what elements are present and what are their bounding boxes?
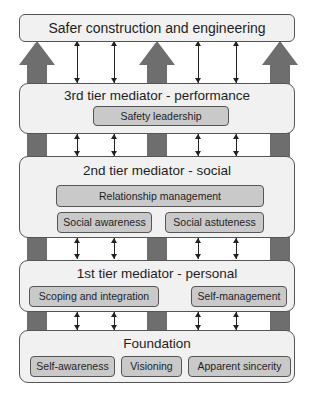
gap-band [167, 237, 270, 260]
tier1-box: 1st tier mediator - personal Scoping and… [19, 260, 295, 312]
chip-visioning: Visioning [121, 356, 182, 377]
double-arrow-icon [77, 134, 78, 156]
gap-band [167, 311, 270, 331]
double-arrow-icon [77, 238, 78, 259]
tier1-title: 1st tier mediator - personal [20, 266, 294, 281]
double-arrow-icon [198, 238, 199, 259]
double-arrow-icon [236, 134, 237, 156]
tier2-title: 2nd tier mediator - social [20, 163, 294, 178]
pillar-center-arrowhead-icon [139, 41, 175, 65]
chip-self-awareness: Self-awareness [30, 356, 115, 377]
chip-relationship-management: Relationship management [56, 185, 264, 207]
chip-scoping-integration: Scoping and integration [29, 286, 159, 307]
double-arrow-icon [77, 41, 78, 83]
foundation-box: Foundation Self-awareness Visioning Appa… [19, 330, 295, 383]
pillar-left-arrowhead-icon [19, 41, 55, 65]
tier2-box: 2nd tier mediator - social Relationship … [19, 156, 295, 238]
double-arrow-icon [114, 238, 115, 259]
chip-social-astuteness: Social astuteness [165, 212, 264, 233]
gap-band [47, 237, 147, 260]
outcome-label: Safer construction and engineering [20, 20, 294, 36]
double-arrow-icon [236, 41, 237, 83]
gap-band [167, 133, 270, 157]
double-arrow-icon [236, 312, 237, 330]
double-arrow-icon [114, 312, 115, 330]
chip-apparent-sincerity: Apparent sincerity [188, 356, 291, 377]
gap-band [47, 311, 147, 331]
foundation-title: Foundation [20, 336, 294, 351]
double-arrow-icon [198, 134, 199, 156]
tier3-title: 3rd tier mediator - performance [20, 88, 294, 103]
double-arrow-icon [114, 41, 115, 83]
chip-social-awareness: Social awareness [57, 212, 152, 233]
double-arrow-icon [114, 134, 115, 156]
gap-band [47, 133, 147, 157]
double-arrow-icon [198, 312, 199, 330]
outcome-box: Safer construction and engineering [19, 14, 295, 42]
pillar-right-arrowhead-icon [262, 41, 298, 65]
double-arrow-icon [77, 312, 78, 330]
double-arrow-icon [236, 238, 237, 259]
double-arrow-icon [198, 41, 199, 83]
chip-safety-leadership: Safety leadership [93, 106, 229, 126]
tier3-box: 3rd tier mediator - performance Safety l… [19, 83, 295, 134]
chip-self-management: Self-management [191, 286, 287, 307]
